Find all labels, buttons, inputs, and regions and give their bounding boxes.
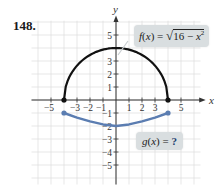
svg-text:2: 2	[140, 103, 145, 113]
svg-text:1: 1	[107, 83, 112, 93]
f-function-label: f(x) = √16 − x2	[134, 25, 209, 47]
endpoint-dot	[165, 97, 170, 102]
svg-text:−3: −3	[102, 135, 112, 145]
endpoint-dot	[61, 97, 66, 102]
svg-text:5: 5	[107, 31, 112, 41]
svg-text:−2: −2	[83, 103, 93, 113]
svg-text:x: x	[208, 94, 214, 106]
svg-text:−5: −5	[44, 103, 54, 113]
svg-text:−5: −5	[102, 161, 112, 171]
unknown-mark: ?	[171, 135, 177, 147]
svg-text:5: 5	[179, 103, 184, 113]
svg-text:3: 3	[153, 103, 158, 113]
svg-text:1: 1	[127, 103, 132, 113]
svg-text:−4: −4	[102, 148, 112, 158]
svg-text:3: 3	[107, 57, 112, 67]
g-function-label: g(x) = ?	[136, 132, 183, 150]
svg-text:−1: −1	[102, 109, 112, 119]
endpoint-dot	[61, 110, 66, 115]
svg-text:2: 2	[107, 70, 112, 80]
endpoint-dot	[165, 110, 170, 115]
svg-text:y: y	[112, 3, 118, 15]
svg-text:−3: −3	[70, 103, 80, 113]
